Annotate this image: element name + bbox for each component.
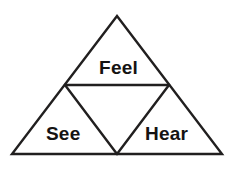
triangle-graphic [0,0,237,169]
sensory-triangle-diagram: Feel See Hear [0,0,237,169]
label-hear: Hear [145,124,188,143]
label-feel: Feel [0,58,237,77]
label-see: See [46,124,80,143]
